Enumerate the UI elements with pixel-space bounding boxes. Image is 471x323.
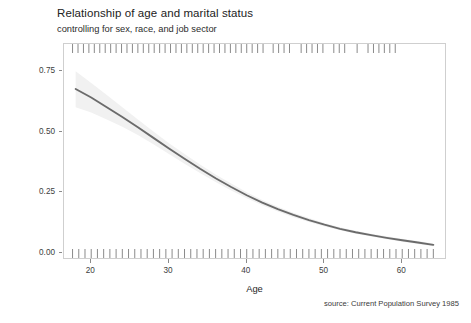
x-axis-label: Age	[63, 283, 446, 294]
x-tick-label: 60	[397, 266, 406, 275]
x-tick-label: 50	[319, 266, 328, 275]
y-tick-mark	[59, 252, 62, 253]
chart-caption: source: Current Population Survey 1985	[324, 299, 459, 308]
chart-title: Relationship of age and marital status	[57, 7, 253, 19]
x-tick-mark	[168, 259, 169, 263]
x-tick-mark	[401, 259, 402, 263]
x-tick-mark	[90, 259, 91, 263]
plot-panel	[63, 43, 446, 259]
rug-bottom-group	[73, 249, 434, 258]
x-tick-label: 20	[86, 266, 95, 275]
fit-line	[76, 89, 434, 245]
y-tick-label: 0.25	[25, 187, 55, 196]
confidence-band	[76, 71, 434, 246]
y-tick-label: 0.75	[25, 65, 55, 74]
x-tick-mark	[246, 259, 247, 263]
chart-subtitle: controlling for sex, race, and job secto…	[57, 24, 217, 34]
y-tick-mark	[59, 131, 62, 132]
chart-figure: Relationship of age and marital status c…	[0, 0, 471, 323]
rug-top-group	[73, 44, 396, 53]
x-tick-label: 40	[241, 266, 250, 275]
y-tick-mark	[59, 191, 62, 192]
x-tick-label: 30	[163, 266, 172, 275]
y-tick-label: 0.50	[25, 126, 55, 135]
plot-area	[64, 44, 445, 258]
x-tick-mark	[323, 259, 324, 263]
y-tick-mark	[59, 70, 62, 71]
y-tick-label: 0.00	[25, 248, 55, 257]
